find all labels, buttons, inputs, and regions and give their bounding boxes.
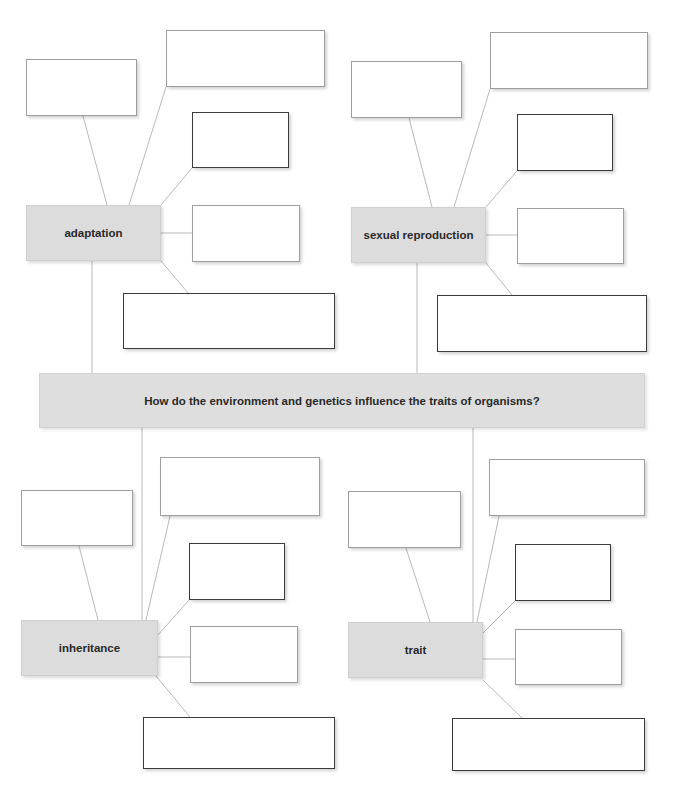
answer-box-trait-5[interactable] (452, 718, 645, 771)
central-question-text: How do the environment and genetics infl… (144, 395, 540, 407)
concept-label: trait (405, 644, 427, 656)
answer-box-adaptation-5[interactable] (123, 293, 335, 349)
concept-trait: trait (348, 622, 483, 678)
concept-label: inheritance (59, 642, 120, 654)
answer-box-trait-3[interactable] (515, 544, 611, 601)
answer-box-trait-4[interactable] (515, 629, 622, 685)
answer-box-inheritance-3[interactable] (189, 543, 285, 600)
concept-sexual-reproduction: sexual reproduction (351, 207, 486, 263)
answer-box-trait-2[interactable] (489, 459, 645, 516)
concept-inheritance: inheritance (21, 620, 158, 676)
answer-box-sexual-reproduction-2[interactable] (490, 32, 648, 89)
answer-box-adaptation-4[interactable] (192, 205, 300, 262)
answer-box-sexual-reproduction-4[interactable] (517, 208, 624, 264)
answer-box-adaptation-2[interactable] (166, 30, 325, 87)
answer-box-inheritance-4[interactable] (190, 626, 298, 683)
answer-box-sexual-reproduction-3[interactable] (517, 114, 613, 171)
answer-box-inheritance-5[interactable] (143, 717, 335, 769)
answer-box-sexual-reproduction-1[interactable] (351, 61, 462, 118)
answer-box-inheritance-2[interactable] (160, 457, 320, 516)
answer-box-sexual-reproduction-5[interactable] (437, 295, 647, 352)
concept-label: adaptation (64, 227, 122, 239)
answer-box-adaptation-3[interactable] (192, 112, 289, 168)
answer-box-inheritance-1[interactable] (21, 490, 133, 546)
concept-adaptation: adaptation (26, 205, 161, 261)
central-question-banner: How do the environment and genetics infl… (39, 373, 645, 428)
answer-box-adaptation-1[interactable] (26, 59, 137, 116)
concept-label: sexual reproduction (364, 229, 474, 241)
answer-box-trait-1[interactable] (348, 491, 461, 548)
